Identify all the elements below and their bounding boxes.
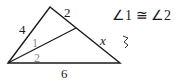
angle-label-1: 1	[32, 37, 38, 49]
squiggle-mark	[123, 36, 128, 48]
given-statement: ∠1 ≅ ∠2	[112, 9, 171, 23]
side-label-left: 4	[19, 23, 26, 36]
angle-label-2: 2	[34, 52, 40, 64]
side-label-top: 2	[64, 6, 71, 19]
side-label-x: x	[100, 34, 106, 47]
side-label-bottom: 6	[61, 67, 68, 80]
